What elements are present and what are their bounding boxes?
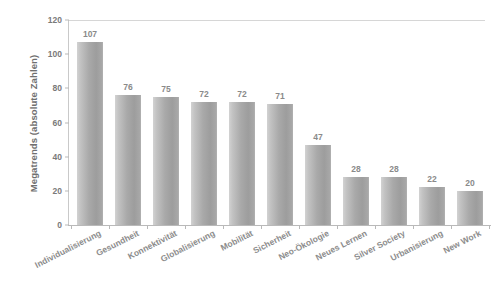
bar-value-label: 71 xyxy=(275,91,284,101)
bar[interactable] xyxy=(381,177,407,225)
bar-value-label: 76 xyxy=(123,82,132,92)
x-axis-line xyxy=(68,225,491,226)
bar-slot: 20 xyxy=(451,20,489,225)
x-tick-mark xyxy=(489,225,490,229)
bar[interactable] xyxy=(305,145,331,225)
y-tick-mark xyxy=(65,156,69,157)
bar-slot: 28 xyxy=(375,20,413,225)
bar[interactable] xyxy=(77,42,103,225)
x-tick-mark xyxy=(451,225,452,229)
y-tick-label: 0 xyxy=(22,220,68,230)
x-tick-mark xyxy=(185,225,186,229)
x-tick-mark xyxy=(299,225,300,229)
bar-value-label: 47 xyxy=(313,132,322,142)
bar-chart: Megatrends (absolute Zahlen) 02040608010… xyxy=(0,0,497,296)
y-tick-label: 20 xyxy=(22,186,68,196)
y-tick-label: 120 xyxy=(22,15,68,25)
bar-value-label: 75 xyxy=(161,84,170,94)
x-tick-mark xyxy=(147,225,148,229)
x-axis-label: New Work xyxy=(442,228,483,255)
bar[interactable] xyxy=(457,191,483,225)
bar[interactable] xyxy=(115,95,141,225)
x-tick-mark xyxy=(337,225,338,229)
bar[interactable] xyxy=(419,187,445,225)
x-tick-mark xyxy=(375,225,376,229)
bar[interactable] xyxy=(267,104,293,225)
bar-value-label: 107 xyxy=(83,29,97,39)
bar-slot: 22 xyxy=(413,20,451,225)
bar-value-label: 72 xyxy=(199,89,208,99)
x-axis-label: Mobilität xyxy=(219,228,255,253)
bar[interactable] xyxy=(229,102,255,225)
x-tick-mark xyxy=(71,225,72,229)
bar[interactable] xyxy=(343,177,369,225)
bar-value-label: 20 xyxy=(465,178,474,188)
y-tick-mark xyxy=(65,20,69,21)
bar[interactable] xyxy=(191,102,217,225)
bar[interactable] xyxy=(153,97,179,225)
bar-slot: 72 xyxy=(185,20,223,225)
y-tick-mark xyxy=(65,190,69,191)
y-tick-mark xyxy=(65,54,69,55)
y-tick-label: 80 xyxy=(22,83,68,93)
bar-value-label: 28 xyxy=(351,164,360,174)
x-tick-mark xyxy=(261,225,262,229)
x-tick-mark xyxy=(223,225,224,229)
bar-slot: 28 xyxy=(337,20,375,225)
bar-slot: 107 xyxy=(71,20,109,225)
bar-value-label: 28 xyxy=(389,164,398,174)
y-tick-label: 40 xyxy=(22,152,68,162)
y-tick-mark xyxy=(65,122,69,123)
bar-slot: 75 xyxy=(147,20,185,225)
bar-value-label: 72 xyxy=(237,89,246,99)
bar-slot: 72 xyxy=(223,20,261,225)
bar-slot: 47 xyxy=(299,20,337,225)
bar-slot: 76 xyxy=(109,20,147,225)
x-tick-mark xyxy=(413,225,414,229)
bar-slot: 71 xyxy=(261,20,299,225)
x-tick-mark xyxy=(109,225,110,229)
y-tick-mark xyxy=(65,88,69,89)
bar-value-label: 22 xyxy=(427,174,436,184)
y-tick-mark xyxy=(65,225,69,226)
plot-area: 020406080100120 10776757272714728282220 xyxy=(68,20,485,225)
y-tick-label: 100 xyxy=(22,49,68,59)
y-tick-label: 60 xyxy=(22,118,68,128)
x-axis-label: Individualisierung xyxy=(33,228,102,270)
